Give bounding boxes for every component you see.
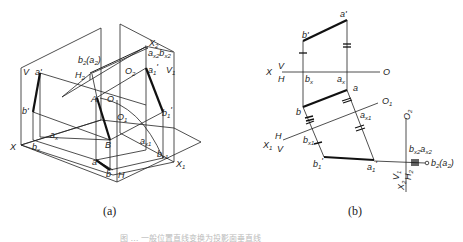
label-X1: X1 [262,140,272,151]
label-O1: O1 [117,112,127,123]
line-a1-prime-b1-prime [324,157,374,160]
line-a-prime-b-prime [303,20,347,41]
label-O2: O2 [125,66,136,77]
label-X1: X1 [175,159,185,170]
label-a1-prime: a1' [148,62,158,76]
panel-b-orthographic: a' b' X V H O bx ax a b O1 ax1 X1 H V bx… [262,9,454,192]
label-H2: H2 [403,170,414,181]
label-b-prime: b' [302,30,309,40]
label-H-x1: H [275,131,282,141]
projector [303,107,324,157]
label-X: X [265,67,273,77]
projector [96,68,146,98]
point-b2-a2 [425,161,429,165]
label-ax1: ax1 [360,110,371,121]
projector [96,150,146,160]
label-B: B [105,140,111,150]
label-A: A [90,94,97,104]
label-O: O [107,94,114,104]
label-H: H [118,170,125,180]
label-b: b [296,107,301,117]
line-ab [303,90,347,107]
panel-a-pictorial: V a' b' X bx ax H2 b2(a2) X2 ax2bx2 O2 a… [9,24,201,182]
label-b-prime: b' [22,106,29,116]
line-ab-v-projection [33,73,40,112]
label-V-x1: V [277,144,284,154]
label-ax2-bx2: ax2bx2 [148,48,171,59]
label-b1-prime: b1' [313,156,323,170]
label-a: a [353,83,358,93]
label-O1: O1 [382,96,392,107]
label-a-prime: a' [340,9,347,19]
projection-diagram: V a' b' X bx ax H2 b2(a2) X2 ax2bx2 O2 a… [0,0,463,242]
label-V1: V1 [391,171,402,180]
projector [33,140,96,160]
label-H2: H2 [75,70,86,81]
line-AB-space [97,98,110,140]
label-bx2-ax2: bx2ax2 [409,144,432,155]
label-H: H [278,74,285,84]
figure-caption: 图 … 一般位置直线变换为投影面垂直线 [120,232,380,242]
projector [33,112,110,140]
label-X: X [9,142,17,152]
caption-b: (b) [348,204,362,218]
label-bx: bx [32,142,41,153]
label-bx: bx [305,74,314,85]
label-V: V [278,61,285,71]
label-a1-prime: a1' [367,159,377,173]
label-O2: O2 [402,109,413,120]
label-ax: ax [337,74,346,85]
label-a-prime: a' [35,67,42,77]
label-a: a [92,157,97,167]
label-X2: X2 [396,180,407,191]
label-ax: ax [50,130,59,141]
label-b2a2: b2(a2) [78,55,101,66]
label-b1-prime: b1' [162,105,172,119]
label-V: V [23,67,30,77]
label-O: O [383,67,390,77]
distance-tick-marks [299,44,418,166]
label-b: b [106,169,111,179]
label-bx1: bx1 [303,135,314,146]
caption-a: (a) [103,204,116,218]
label-b2-a2: b2(a2) [431,158,454,169]
label-x2-axis-group: X2 V1 H2 [391,170,414,192]
